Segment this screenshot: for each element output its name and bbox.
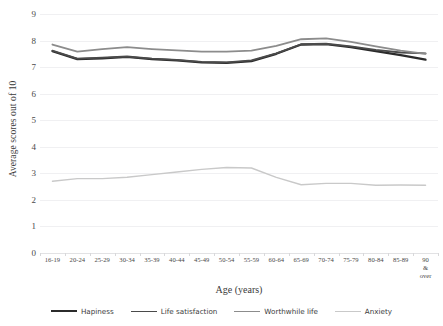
y-tick-label: 1 <box>6 221 36 231</box>
x-tick-label: 70-74 <box>318 256 333 264</box>
y-tick-label: 0 <box>6 248 36 258</box>
x-tick-label: 45-49 <box>194 256 209 264</box>
x-tick-label: 50-54 <box>219 256 234 264</box>
legend-swatch-icon <box>234 311 260 312</box>
x-tick-label: 90 & over <box>419 256 431 281</box>
legend-item-hapiness[interactable]: Hapiness <box>51 307 114 316</box>
series-line-worthwhile-life <box>52 38 425 53</box>
x-tick-label: 35-39 <box>144 256 159 264</box>
y-tick-label: 6 <box>6 89 36 99</box>
legend-swatch-icon <box>335 311 361 312</box>
legend-label: Hapiness <box>81 307 114 316</box>
x-tick-label: 65-69 <box>293 256 308 264</box>
x-tick-label: 75-79 <box>343 256 358 264</box>
legend-label: Life satisfaction <box>161 307 218 316</box>
legend-swatch-icon <box>51 310 77 312</box>
chart-legend: HapinessLife satisfactionWorthwhile life… <box>0 303 443 319</box>
chart-container: Average scores out of 10 0123456789 16-1… <box>0 0 443 326</box>
x-tick-label: 85-89 <box>393 256 408 264</box>
y-tick-label: 3 <box>6 168 36 178</box>
x-tick-label: 40-44 <box>169 256 184 264</box>
legend-item-worthwhile-life[interactable]: Worthwhile life <box>234 307 318 316</box>
y-tick-label: 8 <box>6 36 36 46</box>
y-tick-label: 7 <box>6 62 36 72</box>
legend-item-life-satisfaction[interactable]: Life satisfaction <box>131 307 218 316</box>
series-line-life-satisfaction <box>52 44 425 63</box>
x-tick-label: 55-59 <box>244 256 259 264</box>
legend-swatch-icon <box>131 311 157 312</box>
legend-item-anxiety[interactable]: Anxiety <box>335 307 392 316</box>
y-axis-tick-labels: 0123456789 <box>0 14 36 253</box>
x-tick-label: 80-84 <box>368 256 383 264</box>
x-tick-label: 25-29 <box>94 256 109 264</box>
y-tick-label: 2 <box>6 195 36 205</box>
x-tick-label: 20-24 <box>70 256 85 264</box>
legend-label: Anxiety <box>365 307 392 316</box>
x-tickmark <box>438 253 439 256</box>
x-tick-label: 60-64 <box>269 256 284 264</box>
x-axis-title: Age (years) <box>40 284 438 295</box>
y-tick-label: 4 <box>6 142 36 152</box>
series-line-hapiness <box>52 44 425 63</box>
y-tick-label: 9 <box>6 9 36 19</box>
plot-area <box>40 14 438 253</box>
x-tick-label: 16-19 <box>45 256 60 264</box>
y-tick-label: 5 <box>6 115 36 125</box>
legend-label: Worthwhile life <box>264 307 318 316</box>
series-line-anxiety <box>52 167 425 185</box>
series-lines <box>40 14 438 253</box>
x-tick-label: 30-34 <box>119 256 134 264</box>
x-axis-tick-labels: 16-1920-2425-2930-3435-3940-4445-4950-54… <box>40 256 438 282</box>
